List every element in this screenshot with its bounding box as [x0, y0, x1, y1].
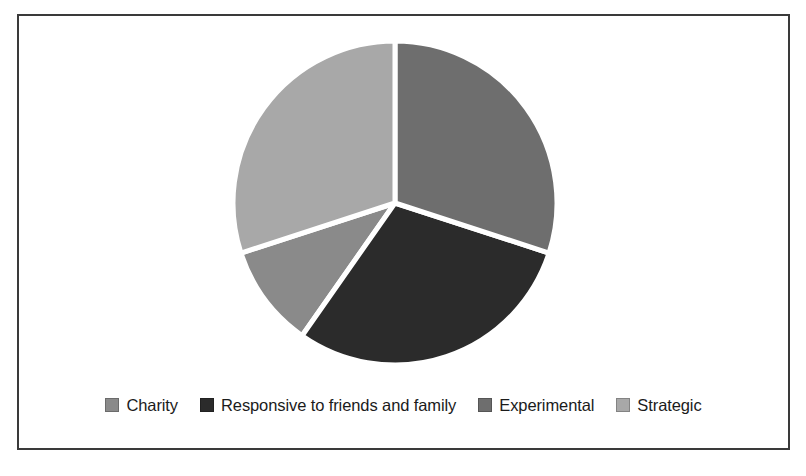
legend-item-strategic[interactable]: Strategic — [616, 397, 701, 414]
pie-chart[interactable] — [230, 38, 560, 368]
legend-swatch-strategic-icon — [616, 398, 630, 412]
legend-label-experimental: Experimental — [499, 397, 594, 414]
legend-swatch-charity-icon — [105, 398, 119, 412]
legend-label-strategic: Strategic — [637, 397, 701, 414]
pie-chart-plot-area — [19, 16, 788, 376]
legend-item-charity[interactable]: Charity — [105, 397, 178, 414]
legend-item-responsive-to-friends-and-family[interactable]: Responsive to friends and family — [200, 397, 456, 414]
legend-label-responsive-to-friends-and-family: Responsive to friends and family — [221, 397, 456, 414]
chart-frame: Charity Responsive to friends and family… — [17, 14, 790, 450]
legend-swatch-experimental-icon — [478, 398, 492, 412]
chart-legend: Charity Responsive to friends and family… — [19, 388, 788, 422]
legend-label-charity: Charity — [126, 397, 178, 414]
pie-slice-group — [233, 41, 557, 365]
legend-item-experimental[interactable]: Experimental — [478, 397, 594, 414]
legend-swatch-responsive-icon — [200, 398, 214, 412]
